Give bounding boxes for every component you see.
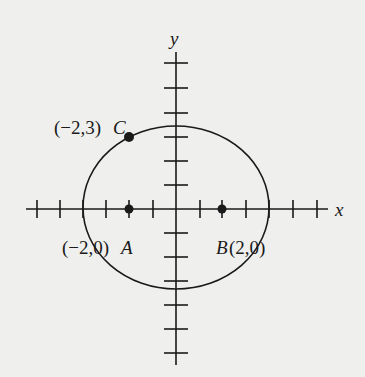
- point-c-letter: C: [113, 117, 126, 138]
- point-b: [218, 205, 227, 214]
- point-c-coords: (−2,3): [54, 117, 101, 139]
- point-a-letter: A: [119, 237, 133, 258]
- point-b-letter: B: [216, 237, 228, 258]
- point-a-coords: (−2,0): [62, 237, 109, 259]
- x-axis-label: x: [334, 199, 344, 220]
- ellipse-diagram: y x (−2,3) C (−2,0) A B (2,0): [0, 0, 365, 377]
- point-b-coords: (2,0): [229, 237, 265, 259]
- point-a: [125, 205, 134, 214]
- y-axis-label: y: [168, 28, 179, 49]
